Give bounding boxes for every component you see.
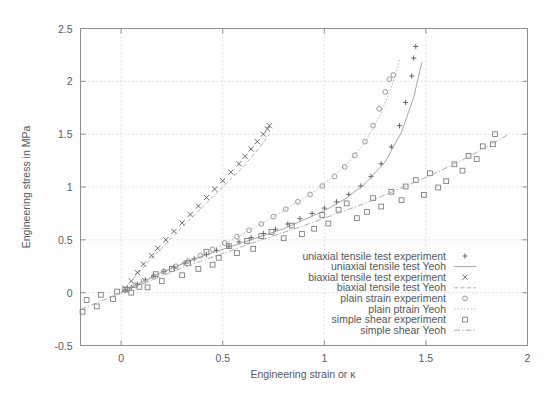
stress-strain-plot: 00.511.52-0.500.511.522.5 Engineering st… xyxy=(0,0,553,402)
y-axis-label: Engineering stress in MPa xyxy=(20,126,32,249)
y-tick-label: 0.5 xyxy=(58,234,73,246)
x-tick-label: 2 xyxy=(525,352,531,364)
y-tick-label: 2 xyxy=(67,75,73,87)
y-tick-label: 2.5 xyxy=(58,23,73,35)
chart-figure: 00.511.52-0.500.511.522.5 Engineering st… xyxy=(0,0,553,402)
y-tick-label: 1.5 xyxy=(58,128,73,140)
y-tick-label: 0 xyxy=(67,287,73,299)
x-tick-label: 1 xyxy=(321,352,327,364)
x-axis-label: Engineering strain or κ xyxy=(250,368,356,380)
x-tick-label: 0 xyxy=(118,352,124,364)
y-tick-label: 1 xyxy=(67,181,73,193)
y-tick-label: -0.5 xyxy=(54,340,72,352)
legend-label: simple shear Yeoh xyxy=(360,324,446,336)
plot-background xyxy=(0,0,553,402)
x-tick-label: 1.5 xyxy=(419,352,434,364)
x-tick-label: 0.5 xyxy=(215,352,230,364)
